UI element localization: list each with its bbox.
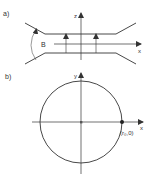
figure-b-label: b) (5, 73, 11, 81)
y-axis-label-b: y (74, 73, 77, 79)
x-axis-label-b: x (140, 125, 143, 131)
diagram-canvas: a) B x z b) x y (r₀,0) (0, 0, 150, 178)
channel-bottom-wall (25, 53, 136, 64)
z-axis-label: z (74, 13, 77, 19)
r0-point (120, 120, 124, 124)
angle-label: B (41, 41, 46, 48)
figure-a: a) B x z (3, 10, 141, 64)
figure-a-label: a) (3, 10, 9, 18)
x-axis-label-a: x (138, 48, 141, 54)
figure-b: b) x y (r₀,0) (5, 73, 143, 174)
channel-top-wall (25, 23, 136, 34)
r0-point-label: (r₀,0) (120, 130, 134, 136)
angle-arc (31, 29, 36, 60)
center-point (80, 121, 82, 123)
